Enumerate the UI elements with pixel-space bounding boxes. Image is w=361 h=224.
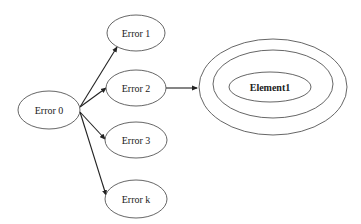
element1-label: Element1 [250,82,291,93]
node-error1[interactable]: Error 1 [107,15,165,51]
error0-label: Error 0 [35,105,64,116]
error3-label: Error 3 [122,135,151,146]
edge-error0-error2 [80,88,106,107]
node-error0[interactable]: Error 0 [18,91,80,129]
error2-label: Error 2 [122,83,151,94]
diagram-canvas: Element1 Error 0 Error 1 Error 2 Error 3… [0,0,361,224]
error1-label: Error 1 [122,28,151,39]
node-errork[interactable]: Error k [105,180,167,218]
edge-error0-errork [80,112,106,195]
node-error2[interactable]: Error 2 [106,70,166,106]
errork-label: Error k [122,194,151,205]
node-element1[interactable]: Element1 [199,39,347,135]
node-error3[interactable]: Error 3 [105,122,167,158]
edges [80,47,197,195]
